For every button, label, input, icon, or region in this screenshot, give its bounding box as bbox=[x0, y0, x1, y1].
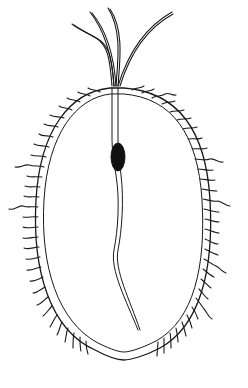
flagella bbox=[72, 8, 173, 86]
illustration-canvas bbox=[0, 0, 248, 388]
axial-rod bbox=[112, 88, 140, 330]
protist-drawing bbox=[0, 0, 248, 388]
cell-body-inner bbox=[43, 94, 202, 352]
nucleus bbox=[111, 143, 125, 171]
